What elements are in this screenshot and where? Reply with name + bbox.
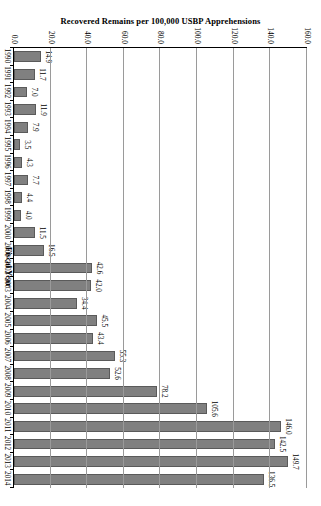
bar-item: 42.0 [14,280,307,291]
bar-item: 4.3 [14,157,307,168]
bar [14,280,91,291]
bar-value-label: 11.9 [39,103,47,115]
bar-chart-figure: Recovered Remains per 100,000 USBP Appre… [0,0,321,506]
bar-value-label: 16.5 [47,244,55,257]
value-axis-tick-label: 60.0 [119,31,128,44]
bar [14,315,97,326]
value-axis-tick-label: 40.0 [83,31,92,44]
gridline [233,48,234,488]
bar-item: 7.9 [14,122,307,133]
bar-item: 105.6 [14,403,307,414]
gridline [269,48,270,488]
bar-item: 43.4 [14,333,307,344]
bar [14,474,264,485]
bar-value-label: 136.5 [267,471,275,487]
bar [14,456,288,467]
gridline [123,48,124,488]
chart-canvas: Recovered Remains per 100,000 USBP Appre… [0,0,321,506]
value-axis-tick-label: 160.0 [303,27,312,44]
gridline [160,48,161,488]
bar-item: 7.7 [14,175,307,186]
bar-item: 11.7 [14,69,307,80]
bar-item: 136.5 [14,474,307,485]
bar-item: 146.0 [14,421,307,432]
bar-value-label: 14.9 [44,51,52,64]
bar-value-label: 78.2 [160,385,168,398]
bar [14,439,275,450]
bar [14,87,27,98]
bar [14,368,110,379]
bar-item: 142.5 [14,439,307,450]
bar-item: 55.3 [14,351,307,362]
bar [14,298,77,309]
bar-item: 78.2 [14,386,307,397]
bar-item: 16.5 [14,245,307,256]
bar-value-label: 4.0 [24,211,32,220]
value-axis-tick-label: 0.0 [10,35,19,44]
bar [14,175,28,186]
value-axis-tick-label: 140.0 [266,27,275,44]
bar-series: 14.911.77.011.97.93.54.37.74.44.011.516.… [14,48,307,487]
bar-value-label: 11.5 [38,227,46,239]
bar-value-label: 52.6 [113,367,121,380]
bar-value-label: 42.0 [94,279,102,292]
bar-value-label: 7.9 [31,123,39,132]
bar [14,51,41,62]
bar-item: 11.5 [14,227,307,238]
bar [14,122,28,133]
gridline [50,48,51,488]
bar [14,263,92,274]
bar-value-label: 4.3 [25,158,33,167]
bar [14,421,281,432]
bar-item: 11.9 [14,104,307,115]
bar-item: 4.0 [14,210,307,221]
bar-value-label: 45.5 [100,315,108,328]
bar-item: 4.4 [14,192,307,203]
value-axis-ticks: 0.020.040.060.080.0100.0120.0140.0160.0 [14,16,307,46]
bar-item: 42.6 [14,263,307,274]
value-axis-tick-label: 20.0 [46,31,55,44]
bar-value-label: 149.7 [291,454,299,470]
rotated-figure: Recovered Remains per 100,000 USBP Appre… [0,0,321,506]
bar [14,157,22,168]
bar-item: 7.0 [14,87,307,98]
bar-value-label: 142.5 [278,436,286,452]
bar [14,69,35,80]
bar [14,333,93,344]
bar-value-label: 4.4 [25,193,33,202]
gridline [196,48,197,488]
category-tick-mark [10,487,13,488]
bar [14,227,35,238]
bar [14,245,44,256]
bar-value-label: 146.0 [284,418,292,434]
bar-item: 14.9 [14,51,307,62]
bar-value-label: 105.6 [210,401,218,417]
bar-item: 45.5 [14,315,307,326]
gridline [306,48,307,488]
bar-item: 34.4 [14,298,307,309]
bar [14,192,22,203]
bar-item: 52.6 [14,368,307,379]
bar-value-label: 7.7 [31,175,39,184]
value-axis-tick-label: 80.0 [156,31,165,44]
bar [14,210,21,221]
bar-item: 3.5 [14,139,307,150]
bar [14,139,20,150]
bar-value-label: 11.7 [38,68,46,80]
bar-value-label: 43.4 [96,332,104,345]
bar [14,104,36,115]
value-axis-tick-label: 100.0 [193,27,202,44]
gridline [86,48,87,488]
bar [14,403,207,414]
bar [14,351,115,362]
bar-value-label: 42.6 [95,262,103,275]
category-axis-title: Fiscal Year [4,47,14,487]
bar-item: 149.7 [14,456,307,467]
bar-value-label: 7.0 [30,87,38,96]
bar-value-label: 3.5 [23,140,31,149]
value-axis-tick-label: 120.0 [229,27,238,44]
plot-area: 14.911.77.011.97.93.54.37.74.44.011.516.… [14,47,307,487]
